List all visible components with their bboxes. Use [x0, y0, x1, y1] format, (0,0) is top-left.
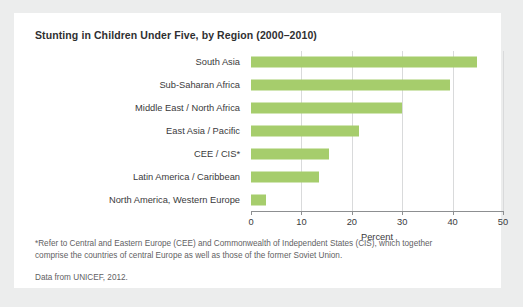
x-tick-label: 0 — [248, 217, 253, 227]
x-tick-label: 50 — [498, 217, 508, 227]
x-tick-mark — [352, 211, 353, 215]
bar — [251, 171, 319, 182]
figure-card: Stunting in Children Under Five, by Regi… — [14, 13, 501, 288]
bar — [251, 148, 329, 159]
figure-notes: *Refer to Central and Eastern Europe (CE… — [35, 238, 455, 284]
category-label: South Asia — [196, 57, 240, 67]
bars-group — [251, 51, 503, 211]
source-text: Data from UNICEF, 2012. — [35, 272, 455, 284]
category-label: CEE / CIS* — [194, 149, 240, 159]
x-tick-mark — [503, 211, 504, 215]
chart-axes — [251, 51, 503, 211]
footnote-text: *Refer to Central and Eastern Europe (CE… — [35, 238, 437, 261]
bar — [251, 126, 359, 137]
category-label: Latin America / Caribbean — [133, 172, 240, 182]
category-label: Middle East / North Africa — [135, 103, 240, 113]
gridline — [503, 51, 504, 211]
chart-title: Stunting in Children Under Five, by Regi… — [35, 29, 317, 41]
x-tick-mark — [251, 211, 252, 215]
x-tick-label: 30 — [397, 217, 407, 227]
category-label: Sub-Saharan Africa — [159, 80, 240, 90]
x-tick-label: 10 — [296, 217, 306, 227]
bar — [251, 57, 477, 68]
category-label: East Asia / Pacific — [166, 126, 240, 136]
bar — [251, 103, 402, 114]
x-tick-mark — [301, 211, 302, 215]
bar-chart-plot: South AsiaSub-Saharan AfricaMiddle East … — [35, 51, 482, 221]
category-axis-labels: South AsiaSub-Saharan AfricaMiddle East … — [35, 51, 244, 211]
x-tick-mark — [453, 211, 454, 215]
x-axis-line — [251, 211, 503, 212]
x-tick-mark — [402, 211, 403, 215]
bar — [251, 194, 266, 205]
category-label: North America, Western Europe — [109, 195, 240, 205]
x-tick-label: 20 — [347, 217, 357, 227]
x-tick-label: 40 — [447, 217, 457, 227]
bar — [251, 80, 450, 91]
